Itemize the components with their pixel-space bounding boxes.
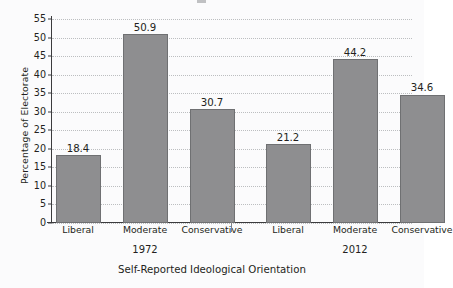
group-label: 2012 [342, 245, 367, 255]
y-tick-label: 10 [34, 181, 46, 191]
bar[interactable]: 18.4 [56, 155, 101, 223]
bar-value-label: 44.2 [344, 48, 367, 58]
y-tick-label: 15 [34, 163, 46, 173]
bar[interactable]: 21.2 [266, 144, 311, 223]
group-axis-labels: 19722012 [52, 245, 412, 259]
bar-value-label: 18.4 [67, 144, 90, 154]
plot-area: 0510152025303540455055 18.450.930.721.24… [52, 19, 412, 223]
bar[interactable]: 44.2 [333, 59, 378, 223]
y-tick-label: 20 [34, 144, 46, 154]
y-tick-label: 0 [40, 218, 46, 228]
category-label: Conservative [391, 225, 452, 234]
bar[interactable]: 50.9 [123, 34, 168, 223]
bar-series: 18.450.930.721.244.234.6 [52, 19, 412, 223]
y-tick-label: 5 [40, 200, 46, 210]
y-tick-label: 35 [34, 88, 46, 98]
group-label: 1972 [132, 245, 157, 255]
y-tick-label: 55 [34, 14, 46, 24]
y-tick-label: 50 [34, 33, 46, 43]
category-label: Liberal [62, 225, 94, 234]
bar[interactable]: 30.7 [190, 109, 235, 223]
bar-value-label: 50.9 [134, 23, 157, 33]
group-separator-tick [231, 222, 232, 232]
x-axis-title: Self-Reported Ideological Orientation [0, 265, 424, 275]
category-label: Moderate [123, 225, 167, 234]
bar[interactable]: 34.6 [400, 95, 445, 223]
bar-value-label: 34.6 [411, 83, 434, 93]
y-tick-label: 25 [34, 125, 46, 135]
y-tick-label: 40 [34, 70, 46, 80]
bar-value-label: 21.2 [277, 133, 300, 143]
category-label: Liberal [272, 225, 304, 234]
y-axis-title: Percentage of Electorate [19, 46, 30, 206]
category-label: Moderate [333, 225, 377, 234]
cropped-title-sliver [197, 0, 206, 3]
category-axis-labels: LiberalModerateConservativeLiberalModera… [52, 225, 412, 239]
y-tick-label: 45 [34, 51, 46, 61]
bar-value-label: 30.7 [201, 98, 224, 108]
category-label: Conservative [181, 225, 242, 234]
y-tick-label: 30 [34, 107, 46, 117]
